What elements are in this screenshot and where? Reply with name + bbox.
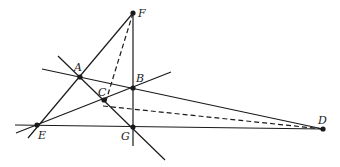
point-E (34, 122, 39, 127)
dashed-CD (103, 106, 323, 129)
label-D: D (317, 114, 327, 127)
point-D (320, 126, 325, 131)
line-ED (15, 125, 323, 129)
label-C: C (98, 86, 107, 99)
dashed-FC (105, 13, 133, 104)
label-F: F (137, 7, 146, 20)
label-G: G (121, 130, 130, 143)
label-B: B (135, 72, 144, 85)
geometry-diagram: FABCGED (0, 0, 340, 167)
point-B (130, 85, 135, 90)
line-AD (42, 69, 323, 129)
point-F (130, 10, 135, 15)
label-A: A (73, 61, 82, 74)
point-A (77, 74, 82, 79)
point-G (130, 124, 135, 129)
label-E: E (37, 129, 46, 142)
